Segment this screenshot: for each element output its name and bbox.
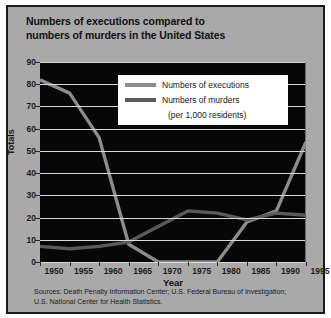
y-axis-tick-label: 50 (10, 147, 36, 155)
y-axis-tick-label: 30 (10, 191, 36, 199)
legend-swatch-executions (125, 83, 156, 87)
chart-title-line-1: Numbers of executions compared to (26, 15, 306, 29)
source-line-1: Sources: Death Penalty Information Cente… (34, 287, 324, 297)
y-axis-tick (35, 218, 40, 219)
y-axis-tick-label: 90 (10, 58, 36, 66)
y-axis-tick-label: 0 (10, 258, 36, 266)
chart-page: Numbers of executions compared to number… (0, 0, 331, 318)
x-axis-labels: 1950195519601965197019751980198519901995 (40, 262, 306, 276)
y-axis-tick-label: 80 (10, 80, 36, 88)
chart-legend: Numbers of executions Numbers of murders… (118, 75, 288, 125)
chart-frame: Numbers of executions compared to number… (6, 5, 325, 314)
y-axis-tick-label: 70 (10, 102, 36, 110)
chart-title-line-2: numbers of murders in the United States (26, 29, 306, 43)
y-axis-tick (35, 62, 40, 63)
y-axis-tick-label: 20 (10, 214, 36, 222)
y-axis-tick (35, 129, 40, 130)
source-line-2: U.S. National Center for Health Statisti… (34, 297, 324, 307)
legend-item-murders: Numbers of murders (125, 95, 282, 105)
chart-title: Numbers of executions compared to number… (26, 15, 306, 42)
y-axis-tick (35, 151, 40, 152)
source-note: Sources: Death Penalty Information Cente… (34, 287, 324, 306)
y-axis-tick (35, 106, 40, 107)
legend-label-murders: Numbers of murders (162, 95, 239, 105)
y-axis-tick (35, 173, 40, 174)
y-axis-tick-label: 40 (10, 169, 36, 177)
y-axis-tick-label: 10 (10, 236, 36, 244)
y-axis-tick (35, 195, 40, 196)
legend-swatch-murders (125, 98, 156, 102)
legend-sublabel-murders: (per 1,000 residents) (168, 110, 282, 120)
legend-item-executions: Numbers of executions (125, 80, 282, 90)
y-axis-tick (35, 84, 40, 85)
y-axis-tick (35, 240, 40, 241)
x-axis-tick-label: 1995 (303, 266, 331, 276)
y-axis-tick-label: 60 (10, 125, 36, 133)
legend-label-executions: Numbers of executions (162, 80, 249, 90)
